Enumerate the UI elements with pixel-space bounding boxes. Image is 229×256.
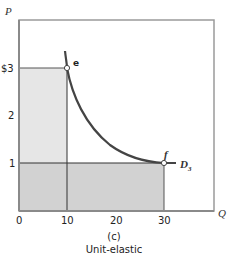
point-e-label: e xyxy=(73,58,79,68)
curve-label: D3 xyxy=(179,158,192,173)
panel-caption: (c) xyxy=(107,231,120,242)
x-tick-20: 20 xyxy=(110,215,123,226)
x-tick-10: 10 xyxy=(61,215,74,226)
y-tick-1: 1 xyxy=(9,158,15,169)
demand-curve-d3 xyxy=(65,51,176,163)
elasticity-chart: P Q $3 2 1 0 10 20 30 e f D3 (c) Unit-el… xyxy=(0,0,229,256)
x-tick-0: 0 xyxy=(16,215,22,226)
y-axis-label: P xyxy=(4,5,12,17)
point-f-label: f xyxy=(164,148,169,160)
y-tick-2: 2 xyxy=(8,110,14,121)
point-e xyxy=(64,65,69,70)
revenue-area-f xyxy=(19,163,164,211)
panel-subtitle: Unit-elastic xyxy=(86,244,142,255)
x-axis-label: Q xyxy=(218,207,226,219)
x-tick-30: 30 xyxy=(158,215,171,226)
y-tick-3: $3 xyxy=(1,63,14,74)
point-f xyxy=(161,160,166,165)
